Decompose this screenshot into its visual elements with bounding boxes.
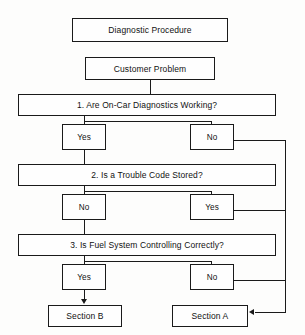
- step-3-no-label: No: [207, 273, 218, 282]
- step-3-yes-label: Yes: [77, 273, 91, 282]
- arrow-left-icon-section-a: [249, 309, 254, 315]
- section-a-label: Section A: [192, 311, 229, 321]
- connector-step1-yes-to-step2: [84, 150, 85, 164]
- section-a-box: Section A: [172, 305, 248, 327]
- section-b-box: Section B: [48, 305, 122, 327]
- step-2-no-label: No: [79, 203, 90, 212]
- section-b-label: Section B: [66, 311, 103, 321]
- step-3-label: 3. Is Fuel System Controlling Correctly?: [70, 240, 224, 250]
- step-1-yes-label: Yes: [77, 133, 91, 142]
- step-2-box: 2. Is a Trouble Code Stored?: [18, 164, 276, 186]
- step-3-box: 3. Is Fuel System Controlling Correctly?: [18, 234, 276, 256]
- step-1-label: 1. Are On-Car Diagnostics Working?: [77, 100, 217, 110]
- step-2-yes-box: Yes: [190, 194, 234, 220]
- diagnostic-procedure-box: Diagnostic Procedure: [72, 18, 228, 42]
- connector-step3-no-to-bus: [234, 280, 285, 281]
- customer-problem-label: Customer Problem: [114, 64, 186, 74]
- step-1-no-box: No: [190, 124, 234, 150]
- step-2-label: 2. Is a Trouble Code Stored?: [91, 170, 202, 180]
- connector-step1-split: [84, 121, 212, 122]
- diagnostic-procedure-label: Diagnostic Procedure: [108, 25, 191, 35]
- step-2-yes-label: Yes: [205, 203, 219, 212]
- flowchart-diagnostic-procedure: Diagnostic Procedure Customer Problem 1.…: [0, 0, 305, 335]
- step-1-box: 1. Are On-Car Diagnostics Working?: [18, 94, 276, 116]
- connector-step2-yes-to-bus: [234, 210, 285, 211]
- connector-step2-no-to-step3: [84, 220, 85, 234]
- arrow-down-icon-section-b: [81, 299, 87, 304]
- connector-step1-no-to-bus: [234, 140, 285, 141]
- connector-right-bus: [285, 140, 286, 313]
- step-1-yes-box: Yes: [62, 124, 106, 150]
- connector-step3-split: [84, 261, 212, 262]
- step-1-no-label: No: [207, 133, 218, 142]
- connector-problem-to-step1: [150, 80, 151, 94]
- connector-bus-to-section-a: [255, 312, 286, 313]
- step-3-no-box: No: [190, 264, 234, 290]
- step-3-yes-box: Yes: [62, 264, 106, 290]
- step-2-no-box: No: [62, 194, 106, 220]
- customer-problem-box: Customer Problem: [85, 57, 215, 80]
- connector-step2-split: [84, 191, 212, 192]
